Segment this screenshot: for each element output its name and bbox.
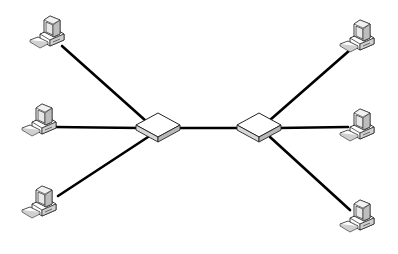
link-pc-right-top (270, 50, 350, 120)
computer-right-middle-icon (340, 109, 374, 141)
network-diagram (0, 0, 398, 254)
link-pc-right-bottom (270, 137, 350, 210)
computer-left-bottom-icon (22, 186, 56, 218)
link-pc-left-bottom (58, 137, 148, 196)
link-pc-left-middle (54, 127, 140, 128)
link-pc-left-top (62, 46, 146, 121)
links (54, 46, 350, 210)
computer-right-top-icon (340, 20, 374, 52)
link-pc-right-middle (278, 127, 348, 128)
computer-left-middle-icon (22, 104, 56, 136)
computer-left-top-icon (30, 16, 64, 48)
